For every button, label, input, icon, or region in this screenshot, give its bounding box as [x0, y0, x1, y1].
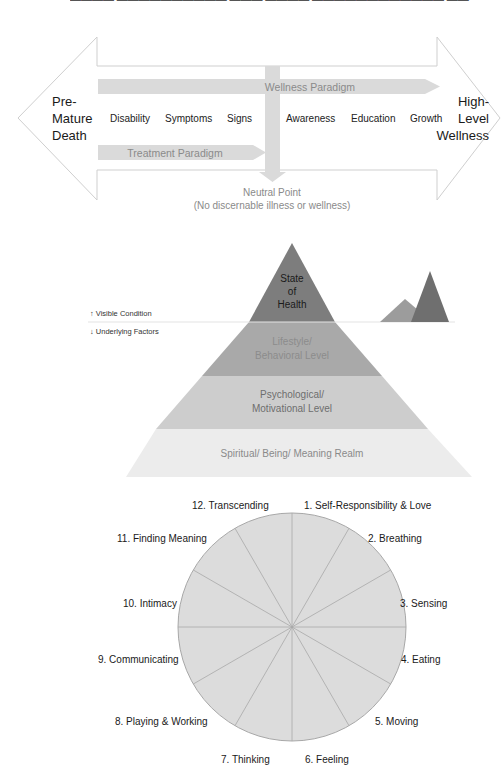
stage-symptoms: Symptoms	[165, 113, 212, 124]
state-line-2: of	[288, 286, 297, 297]
right-end-line-1: High-	[458, 94, 489, 109]
segment-6-label: 6. Feeling	[305, 754, 349, 765]
underlying-factors-label: ↓ Underlying Factors	[90, 327, 159, 336]
segment-7-label: 7. Thinking	[221, 754, 270, 765]
left-end-line-1: Pre-	[52, 94, 77, 109]
segment-3-label: 3. Sensing	[400, 598, 447, 609]
stage-awareness: Awareness	[286, 113, 335, 124]
spiritual-line-1: Spiritual/ Being/ Meaning Realm	[221, 448, 364, 459]
neutral-point-label: Neutral Point	[243, 187, 301, 198]
psychological-line-1: Psychological/	[260, 389, 324, 400]
iceberg-model: ↑ Visible Condition ↓ Underlying Factors…	[0, 230, 503, 490]
illness-wellness-continuum: Wellness Paradigm Treatment Paradigm Pre…	[0, 0, 503, 230]
segment-12-label: 12. Transcending	[192, 500, 269, 511]
segment-9-label: 9. Communicating	[98, 654, 179, 665]
lifestyle-line-1: Lifestyle/	[272, 336, 312, 347]
state-line-3: Health	[278, 299, 307, 310]
wellness-energy-wheel: 1. Self-Responsibility & Love 2. Breathi…	[0, 490, 503, 772]
segment-5-label: 5. Moving	[375, 716, 418, 727]
stage-education: Education	[351, 113, 395, 124]
left-end-line-3: Death	[52, 128, 87, 143]
visible-condition-label: ↑ Visible Condition	[90, 309, 152, 318]
lifestyle-line-2: Behavioral Level	[255, 350, 329, 361]
wheel	[178, 513, 406, 741]
treatment-paradigm-label: Treatment Paradigm	[127, 147, 223, 159]
segment-11-label: 11. Finding Meaning	[117, 533, 207, 544]
right-end-line-3: Wellness	[436, 128, 489, 143]
segment-10-label: 10. Intimacy	[123, 598, 177, 609]
mini-peak-front	[411, 271, 449, 322]
segment-1-label: 1. Self-Responsibility & Love	[304, 500, 432, 511]
wellness-paradigm-label: Wellness Paradigm	[265, 81, 356, 93]
segment-4-label: 4. Eating	[401, 654, 440, 665]
left-end-line-2: Mature	[52, 111, 92, 126]
stage-disability: Disability	[110, 113, 150, 124]
stage-growth: Growth	[410, 113, 442, 124]
segment-8-label: 8. Playing & Working	[115, 716, 208, 727]
level-lifestyle	[202, 322, 382, 376]
segment-2-label: 2. Breathing	[368, 533, 422, 544]
state-line-1: State	[280, 273, 304, 284]
psychological-line-2: Motivational Level	[252, 403, 332, 414]
stage-signs: Signs	[227, 113, 252, 124]
right-end-line-2: Level	[458, 111, 489, 126]
neutral-point-note: (No discernable illness or wellness)	[194, 200, 351, 211]
